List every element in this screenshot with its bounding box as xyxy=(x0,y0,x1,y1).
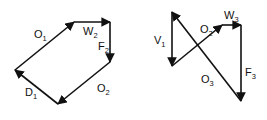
vector-label-o2: O2 xyxy=(200,23,213,38)
vector-diagram-canvas: O1W2F2O2D1 V1O2W3F3O3 xyxy=(0,0,267,120)
vector-label-f3: F3 xyxy=(245,66,256,81)
vector-label-o3: O3 xyxy=(201,73,214,88)
vector-label-f2: F2 xyxy=(98,40,109,55)
vector-label-v1: V1 xyxy=(154,34,166,49)
vector-arrow-o1 xyxy=(15,22,74,70)
vector-label-o2: O2 xyxy=(97,82,110,97)
right-vector-polygon: V1O2W3F3O3 xyxy=(154,9,256,101)
vector-label-d1: D1 xyxy=(25,86,37,101)
vector-label-o1: O1 xyxy=(34,28,47,43)
vector-label-w2: W2 xyxy=(83,25,98,40)
vector-label-w3: W3 xyxy=(224,9,239,24)
left-vector-polygon: O1W2F2O2D1 xyxy=(15,22,110,104)
